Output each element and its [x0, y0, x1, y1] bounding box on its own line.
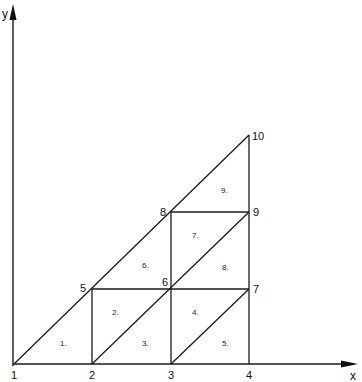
element-label-5: 5. [222, 339, 229, 348]
node-label-4: 4 [246, 369, 252, 381]
element-label-9: 9. [221, 186, 228, 195]
node-label-10: 10 [252, 130, 264, 142]
element-label-3: 3. [142, 339, 149, 348]
element-label-2: 2. [112, 308, 119, 317]
node-label-3: 3 [168, 369, 174, 381]
x-axis-label: x [350, 369, 356, 382]
node-label-1: 1 [11, 369, 17, 381]
element-labels: 1. 2. 3. 4. 5. 6. 7. 8. 9. [60, 186, 229, 348]
finite-element-mesh-diagram: y x 1 2 3 4 5 6 7 8 9 10 1. 2. 3. 4. 5. [0, 0, 362, 382]
element-label-1: 1. [60, 339, 67, 348]
element-label-6: 6. [142, 261, 149, 270]
node-label-5: 5 [80, 282, 86, 294]
edge-1-10 [14, 135, 249, 364]
node-label-8: 8 [160, 206, 166, 218]
element-label-7: 7. [192, 231, 199, 240]
element-label-8: 8. [222, 263, 229, 272]
node-label-9: 9 [253, 206, 259, 218]
edge-3-7 [171, 289, 249, 364]
node-label-7: 7 [253, 283, 259, 295]
element-label-4: 4. [192, 308, 199, 317]
node-label-2: 2 [89, 369, 95, 381]
mesh-edges [14, 135, 249, 364]
y-axis-arrow-icon [10, 4, 17, 20]
x-axis-arrow-icon [341, 361, 358, 368]
node-label-6: 6 [162, 276, 168, 288]
y-axis-label: y [2, 7, 8, 21]
axes: y x [2, 4, 358, 382]
